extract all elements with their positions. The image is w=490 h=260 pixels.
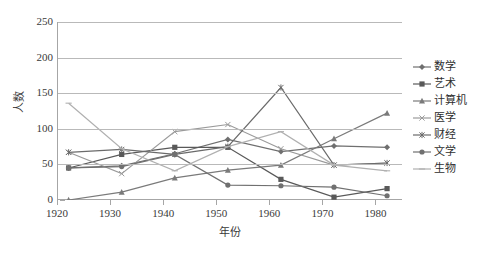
x-axis-tick-label: 1980 [350,208,400,219]
x-axis-tick-mark [322,200,323,205]
data-point-marker [331,185,336,190]
plot-area [57,22,402,200]
series-line [69,154,387,195]
legend-item-5[interactable]: 文学 [412,143,490,160]
x-axis-title: 年份 [57,226,402,238]
legend-label: 生物 [434,163,456,175]
series-line [69,88,387,166]
gridline [58,164,402,165]
legend-marker-icon [412,146,432,158]
x-axis-tick-mark [163,200,164,205]
data-point-marker [331,143,337,149]
legend-label: 数学 [434,61,456,73]
data-point-marker [225,136,231,142]
x-axis-tick-label: 1920 [32,208,82,219]
legend-marker-icon [412,95,432,107]
legend-marker-icon [412,163,432,175]
gridline [58,58,402,59]
x-axis-tick-mark [269,200,270,205]
legend-item-4[interactable]: 财经 [412,126,490,143]
legend-marker-icon [412,61,432,73]
legend-item-6[interactable]: 生物 [412,160,490,177]
data-point-marker [384,144,390,150]
y-axis-ticks: 050100150200250 [8,0,53,260]
gridline [58,22,402,23]
legend-label: 计算机 [434,95,467,107]
legend-label: 医学 [434,112,456,124]
data-point-marker [384,110,390,116]
y-axis-tick-label: 200 [13,52,53,63]
data-point-marker [331,136,337,142]
legend-item-3[interactable]: 医学 [412,109,490,126]
x-axis-tick-mark [216,200,217,205]
legend-marker-icon [412,112,432,124]
x-axis-tick-mark [110,200,111,205]
data-point-marker [331,195,336,200]
line-chart: 050100150200250 人数 192019301940195019601… [0,0,490,260]
data-point-marker [172,152,177,157]
legend-label: 艺术 [434,78,456,90]
x-axis-tick-label: 1930 [85,208,135,219]
legend-label: 文学 [434,146,456,158]
y-axis-tick-label: 0 [13,194,53,205]
legend-marker-icon [412,78,432,90]
series-5 [66,152,390,198]
legend-item-1[interactable]: 艺术 [412,75,490,92]
legend-marker-icon [412,129,432,141]
series-lines [58,22,403,200]
data-point-marker [384,193,389,198]
y-axis-tick-label: 250 [13,16,53,27]
legend-item-2[interactable]: 计算机 [412,92,490,109]
data-point-marker [278,177,283,182]
legend-item-0[interactable]: 数学 [412,58,490,75]
x-axis-tick-mark [375,200,376,205]
y-axis-tick-label: 50 [13,158,53,169]
data-point-marker [172,145,177,150]
data-point-marker [419,81,424,86]
data-point-marker [419,149,424,154]
y-axis-tick-mark [60,200,65,201]
data-point-marker [225,182,230,187]
y-axis-title: 人数 [13,79,25,125]
data-point-marker [66,165,71,170]
data-point-marker [119,152,124,157]
data-point-marker [419,64,425,70]
legend-label: 财经 [434,129,456,141]
x-axis-tick-label: 1960 [244,208,294,219]
data-point-marker [119,171,124,176]
data-point-marker [384,186,389,191]
gridline [58,129,402,130]
chart-legend: 数学艺术计算机医学财经文学生物 [412,58,490,177]
gridline [58,93,402,94]
x-axis-tick-label: 1970 [297,208,347,219]
x-axis-tick-label: 1950 [191,208,241,219]
data-point-marker [278,84,283,90]
x-axis-tick-mark [57,200,58,205]
x-axis-tick-label: 1940 [138,208,188,219]
data-point-marker [278,183,283,188]
